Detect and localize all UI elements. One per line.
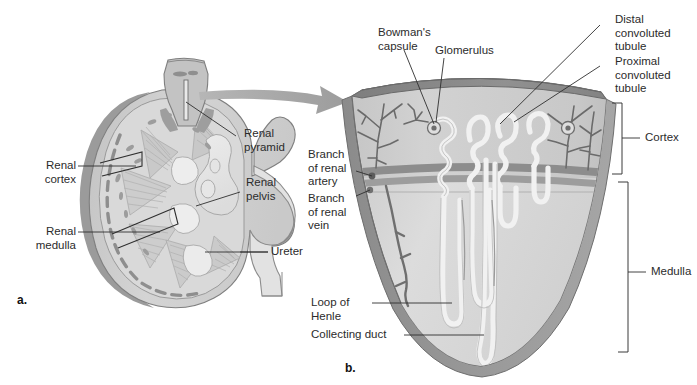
kidney-figure: Renal pyramid Renal cortex Renal pelvis … [0, 0, 697, 385]
label-collecting-duct: Collecting duct [311, 328, 386, 342]
label-glomerulus: Glomerulus [435, 44, 494, 58]
label-medulla: Medulla [651, 265, 691, 279]
label-renal-pelvis: Renal pelvis [246, 176, 276, 203]
label-loop-of-henle: Loop of Henle [311, 296, 349, 323]
panel-a-id: a. [17, 293, 27, 307]
label-renal-cortex: Renal cortex [8, 159, 76, 186]
panel-b-nephron [338, 25, 646, 380]
panel-b-id: b. [345, 361, 356, 375]
label-cortex: Cortex [645, 131, 679, 145]
label-branch-of-renal-artery: Branch of renal artery [308, 148, 346, 189]
label-branch-of-renal-vein: Branch of renal vein [308, 192, 346, 233]
brackets [612, 103, 628, 352]
label-renal-pyramid: Renal pyramid [244, 127, 285, 154]
label-ureter: Ureter [271, 245, 303, 259]
label-bowmans-capsule: Bowman's capsule [378, 26, 431, 53]
label-renal-medulla: Renal medulla [8, 225, 76, 252]
label-distal-convoluted-tubule: Distal convoluted tubule [615, 13, 671, 54]
label-proximal-convoluted-tubule: Proximal convoluted tubule [615, 55, 671, 96]
